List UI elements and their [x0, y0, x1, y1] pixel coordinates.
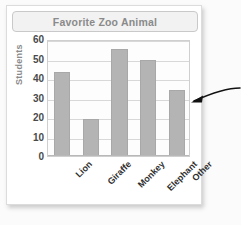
plot-area: [47, 40, 190, 157]
x-tick-label-lion: Lion: [74, 159, 95, 180]
chart-screenshot: Favorite Zoo Animal Students 01020304050…: [0, 0, 241, 225]
bar-giraffe: [83, 119, 99, 156]
bars-layer: [48, 41, 189, 156]
bar-lion: [54, 72, 70, 156]
y-axis-tick-labels: 0102030405060: [18, 40, 44, 157]
bar-other: [169, 90, 185, 156]
y-tick-label: 20: [18, 113, 44, 123]
x-axis-baseline: [48, 155, 189, 156]
bar-monkey: [111, 49, 127, 156]
bar-elephant: [140, 60, 156, 156]
x-axis-tick-labels: LionGiraffeMonkeyElephantOther: [47, 159, 190, 201]
y-tick-label: 30: [18, 94, 44, 104]
x-tick-label-monkey: Monkey: [135, 159, 166, 190]
pointer-arrow-icon: [186, 84, 241, 112]
x-tick-label-giraffe: Giraffe: [105, 159, 133, 187]
y-tick-label: 40: [18, 74, 44, 84]
y-tick-label: 10: [18, 133, 44, 143]
chart-title-plate: Favorite Zoo Animal: [12, 11, 198, 32]
y-tick-label: 50: [18, 55, 44, 65]
y-tick-label: 60: [18, 35, 44, 45]
y-tick-label: 0: [18, 152, 44, 162]
chart-title: Favorite Zoo Animal: [53, 16, 157, 28]
